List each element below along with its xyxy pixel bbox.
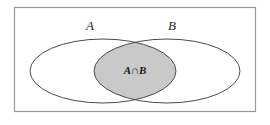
set-a-label: A <box>85 18 94 33</box>
intersection-label: A∩B <box>123 64 147 76</box>
venn-diagram-figure: A B A∩B <box>0 0 270 125</box>
venn-diagram-canvas: A B A∩B <box>0 0 270 125</box>
set-b-label: B <box>168 18 176 33</box>
